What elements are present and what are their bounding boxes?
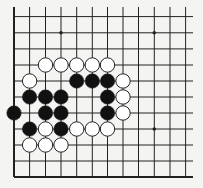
black-stone[interactable] <box>38 106 52 120</box>
white-stone[interactable] <box>38 122 52 136</box>
black-stone[interactable] <box>85 74 99 88</box>
white-stone[interactable] <box>100 122 114 136</box>
black-stone[interactable] <box>100 74 114 88</box>
black-stone[interactable] <box>38 90 52 104</box>
white-stone[interactable] <box>70 58 84 72</box>
white-stone[interactable] <box>54 138 68 152</box>
white-stone[interactable] <box>116 74 130 88</box>
black-stone[interactable] <box>54 90 68 104</box>
white-stone[interactable] <box>38 58 52 72</box>
black-stone[interactable] <box>100 106 114 120</box>
black-stone[interactable] <box>22 90 36 104</box>
black-stone[interactable] <box>70 74 84 88</box>
white-stone[interactable] <box>70 122 84 136</box>
black-stone[interactable] <box>7 106 21 120</box>
white-stone[interactable] <box>100 58 114 72</box>
white-stone[interactable] <box>85 58 99 72</box>
stones-layer <box>7 58 130 152</box>
black-stone[interactable] <box>54 122 68 136</box>
go-board[interactable] <box>0 0 203 188</box>
star-point <box>153 31 157 35</box>
white-stone[interactable] <box>116 106 130 120</box>
white-stone[interactable] <box>22 74 36 88</box>
white-stone[interactable] <box>22 138 36 152</box>
white-stone[interactable] <box>38 138 52 152</box>
star-point <box>59 31 63 35</box>
star-point <box>153 127 157 131</box>
black-stone[interactable] <box>100 90 114 104</box>
black-stone[interactable] <box>54 106 68 120</box>
black-stone[interactable] <box>22 122 36 136</box>
white-stone[interactable] <box>85 122 99 136</box>
white-stone[interactable] <box>54 58 68 72</box>
white-stone[interactable] <box>116 90 130 104</box>
